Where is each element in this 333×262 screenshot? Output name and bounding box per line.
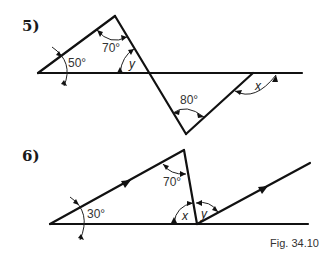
angle-label-x-p6: x xyxy=(181,209,189,223)
arrowhead-icon xyxy=(128,49,134,55)
problem-6-label: 6) xyxy=(22,147,40,165)
arrowhead-icon xyxy=(196,200,202,206)
arrowhead-icon xyxy=(117,67,123,73)
problem-6-diagram: 6) 30° 70° x y xyxy=(22,147,310,240)
problem-5-diagram: 5) 50° 70° y 80° x xyxy=(22,16,302,134)
angle-label-y-p5: y xyxy=(128,57,136,71)
arrowhead-icon xyxy=(171,217,177,223)
figure-caption: Fig. 34.10 xyxy=(270,237,319,249)
angle-label-50: 50° xyxy=(68,56,86,70)
angle-label-30: 30° xyxy=(87,207,105,221)
arrowhead-icon xyxy=(235,90,242,95)
figure-34-10: 5) 50° 70° y 80° x 6 xyxy=(0,0,333,262)
arrowhead-icon xyxy=(97,30,103,37)
angle-label-70-p6: 70° xyxy=(163,175,181,189)
angle-label-y-p6: y xyxy=(200,207,208,221)
angle-label-x-p5: x xyxy=(254,79,262,93)
angle-label-70-p5: 70° xyxy=(102,41,120,55)
parallel-ray-6 xyxy=(197,163,310,224)
angle-label-80: 80° xyxy=(180,93,198,107)
arrowhead-icon xyxy=(78,234,84,240)
transversal-5 xyxy=(115,16,186,134)
problem-5-label: 5) xyxy=(22,17,40,35)
